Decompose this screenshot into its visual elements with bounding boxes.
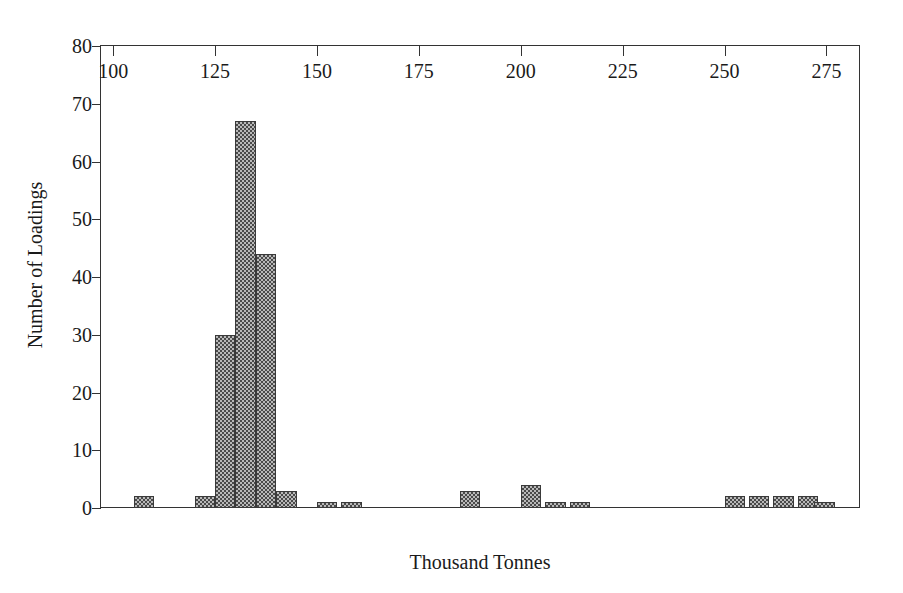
x-axis-tick-label: 100: [98, 61, 128, 81]
y-axis-tick: [92, 393, 101, 394]
x-axis-tick-label: 250: [710, 61, 740, 81]
y-axis-tick: [92, 277, 101, 278]
y-axis-tick-label: 80: [72, 36, 92, 56]
y-axis-tick: [92, 104, 101, 105]
y-axis-title: Number of Loadings: [25, 155, 45, 375]
y-axis-tick-label: 40: [72, 267, 92, 287]
y-axis-tick-label: 30: [72, 325, 92, 345]
x-axis-tick-label: 225: [608, 61, 638, 81]
x-axis-tick-label: 200: [506, 61, 536, 81]
y-axis-tick: [92, 335, 101, 336]
y-axis-tick: [92, 219, 101, 220]
y-axis-tick-label: 10: [72, 440, 92, 460]
axis-overlay: 0102030405060708010012515017520022525027…: [100, 45, 860, 508]
x-axis-tick: [419, 46, 420, 56]
x-axis-tick-label: 150: [302, 61, 332, 81]
x-axis-tick: [317, 46, 318, 56]
x-axis-tick: [725, 46, 726, 56]
y-axis-tick-label: 70: [72, 94, 92, 114]
x-axis-tick-label: 275: [811, 61, 841, 81]
x-axis-tick: [113, 46, 114, 56]
y-axis-tick-label: 60: [72, 152, 92, 172]
y-axis-tick: [92, 508, 101, 509]
x-axis-tick-label: 125: [200, 61, 230, 81]
y-axis-tick: [92, 162, 101, 163]
y-axis-tick: [92, 450, 101, 451]
x-axis-tick: [826, 46, 827, 56]
histogram-figure: 0102030405060708010012515017520022525027…: [0, 0, 903, 593]
y-axis-tick: [92, 46, 101, 47]
y-axis-tick-label: 50: [72, 209, 92, 229]
x-axis-tick: [215, 46, 216, 56]
x-axis-tick: [521, 46, 522, 56]
x-axis-tick: [623, 46, 624, 56]
y-axis-tick-label: 0: [82, 498, 92, 518]
x-axis-tick-label: 175: [404, 61, 434, 81]
y-axis-tick-label: 20: [72, 383, 92, 403]
x-axis-title: Thousand Tonnes: [100, 552, 860, 572]
